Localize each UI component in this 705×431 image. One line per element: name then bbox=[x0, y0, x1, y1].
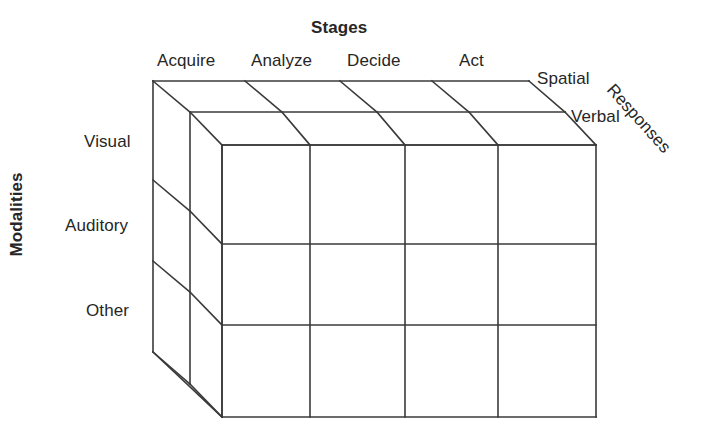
top-face-spatial bbox=[153, 81, 565, 112]
modality-label-visual: Visual bbox=[84, 133, 131, 150]
front-face-outline bbox=[222, 145, 596, 417]
figure-root: Stages Acquire Analyze Decide Act Spatia… bbox=[0, 0, 705, 431]
modality-label-other: Other bbox=[86, 302, 129, 319]
stage-label-acquire: Acquire bbox=[157, 52, 215, 69]
response-label-verbal: Verbal bbox=[571, 108, 620, 125]
response-label-spatial: Spatial bbox=[537, 70, 590, 87]
front-face-column-grid bbox=[310, 145, 498, 417]
stage-label-decide: Decide bbox=[347, 52, 401, 69]
stage-label-act: Act bbox=[459, 52, 484, 69]
stage-label-analyze: Analyze bbox=[251, 52, 312, 69]
top-face-verbal bbox=[190, 112, 596, 145]
axis-title-stages: Stages bbox=[311, 19, 367, 36]
modality-label-auditory: Auditory bbox=[65, 217, 128, 234]
front-face-row-grid bbox=[222, 244, 596, 325]
axis-title-modalities: Modalities bbox=[8, 172, 25, 256]
left-face-spatial bbox=[153, 112, 190, 384]
left-face-verbal bbox=[190, 145, 222, 417]
